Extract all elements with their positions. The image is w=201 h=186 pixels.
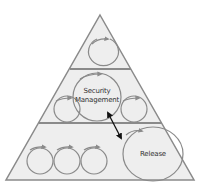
security-management-label: Security Management	[73, 87, 121, 105]
pyramid-diagram: Security Management Release	[0, 0, 201, 186]
release-label: Release	[133, 150, 173, 159]
security-label-line1: Security	[73, 87, 121, 96]
release-label-text: Release	[140, 150, 166, 158]
security-label-line2: Management	[73, 96, 121, 105]
